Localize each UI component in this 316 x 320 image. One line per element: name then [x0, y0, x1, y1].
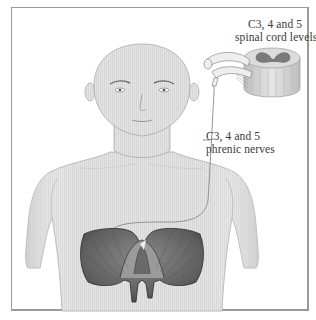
spinal-label-line2: spinal cord levels [235, 31, 315, 44]
torso [26, 152, 259, 311]
phrenic-nerves-label: C3, 4 and 5 phrenic nerves [206, 130, 275, 156]
anatomy-illustration [0, 0, 316, 320]
phrenic-label-line1: C3, 4 and 5 [206, 130, 275, 143]
spinal-cord-levels-label: C3, 4 and 5 spinal cord levels [235, 18, 315, 44]
spinal-cord-cross-section [244, 48, 300, 97]
phrenic-label-line2: phrenic nerves [206, 143, 275, 156]
spinal-label-line1: C3, 4 and 5 [235, 18, 315, 31]
head [85, 44, 199, 136]
